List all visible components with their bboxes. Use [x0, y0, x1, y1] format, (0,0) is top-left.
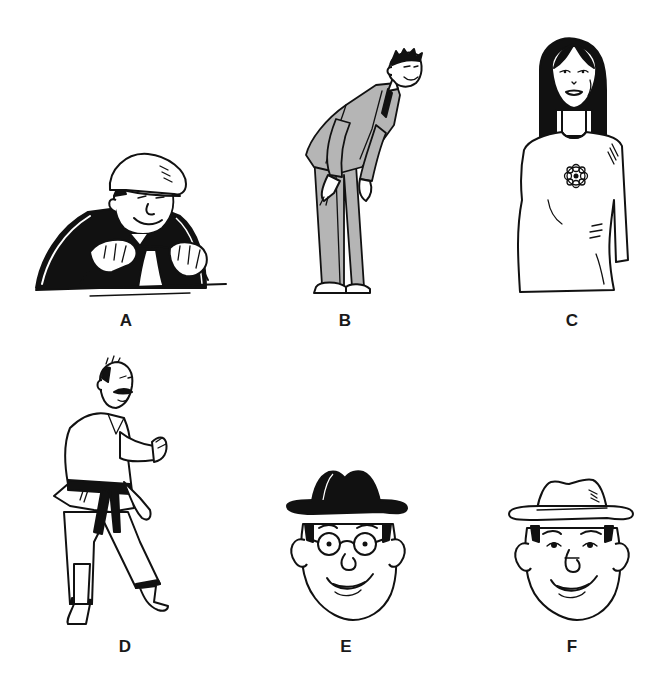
figure-c-woman [510, 40, 640, 302]
figure-f-white-hat [507, 478, 637, 628]
figure-d-judo-man [44, 362, 184, 624]
figure-b-bending-man [300, 55, 430, 300]
driver-illustration [30, 150, 230, 300]
figure-label-d: D [119, 638, 131, 655]
woman-illustration [510, 40, 640, 302]
figure-a-driver [30, 150, 230, 300]
figure-label-e: E [340, 638, 351, 655]
figure-label-c: C [566, 312, 578, 329]
white-fedora-hat-icon [509, 479, 633, 520]
figure-label-b: B [339, 312, 351, 329]
figure-label-f: F [567, 638, 577, 655]
glasses-black-hat-illustration [283, 470, 413, 628]
figure-label-a: A [120, 312, 132, 329]
figure-e-glasses-black-hat [283, 470, 413, 628]
judo-man-illustration [44, 362, 184, 624]
white-hat-illustration [507, 478, 637, 628]
black-fedora-hat-icon [287, 471, 407, 514]
bending-man-illustration [300, 55, 430, 300]
